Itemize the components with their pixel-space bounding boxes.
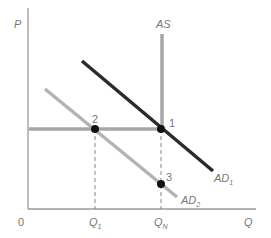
x-axis-label: Q <box>244 216 253 228</box>
ad1-curve <box>82 61 213 171</box>
qn-sub: N <box>163 223 169 230</box>
ad2-label-main: AD <box>180 194 196 206</box>
point-3-label: 3 <box>166 171 172 183</box>
point-1 <box>157 125 165 133</box>
ad2-label: AD2 <box>180 194 200 208</box>
ad2-curve <box>45 89 177 197</box>
y-axis-label: P <box>14 18 22 30</box>
q1-tick-label: Q1 <box>89 216 102 230</box>
point-3 <box>157 180 165 188</box>
as-ad-diagram: 1 2 3 AS AD1 AD2 P Q 0 Q1 QN <box>0 0 271 238</box>
as-label: AS <box>155 18 171 30</box>
ad1-label: AD1 <box>213 172 233 186</box>
point-2-label: 2 <box>92 113 98 125</box>
point-2 <box>91 125 99 133</box>
point-1-label: 1 <box>169 117 175 129</box>
qn-tick-label: QN <box>154 216 169 230</box>
ad1-label-main: AD <box>213 172 229 184</box>
origin-label: 0 <box>18 216 24 228</box>
ad2-label-sub: 2 <box>195 201 200 208</box>
ad1-label-sub: 1 <box>229 179 233 186</box>
q1-sub: 1 <box>98 223 102 230</box>
